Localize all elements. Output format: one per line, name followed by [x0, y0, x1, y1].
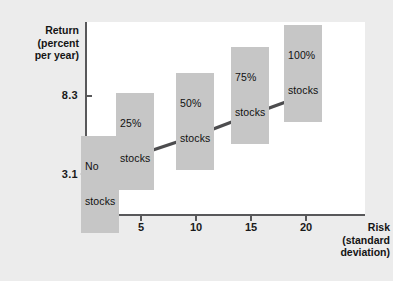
annotation-50-stocks: 50% stocks	[176, 73, 214, 170]
annotation-25-stocks-line-1: 25%	[120, 118, 150, 130]
annotation-25-stocks-line-2: stocks	[120, 153, 150, 165]
annotation-no-stocks-line-1: No	[85, 161, 115, 173]
annotation-100-stocks-line-2: stocks	[288, 85, 318, 97]
annotation-50-stocks-line-2: stocks	[180, 133, 210, 145]
annotation-75-stocks: 75% stocks	[231, 47, 269, 144]
annotation-50-stocks-line-1: 50%	[180, 98, 210, 110]
annotation-100-stocks-line-1: 100%	[288, 50, 318, 62]
annotation-75-stocks-line-1: 75%	[235, 72, 265, 84]
annotation-no-stocks-line-2: stocks	[85, 196, 115, 208]
risk-return-chart: 8.3 3.1 0 5 10 15 20 Return (percent per…	[0, 0, 393, 281]
annotation-no-stocks: No stocks	[81, 136, 119, 233]
annotation-75-stocks-line-2: stocks	[235, 107, 265, 119]
annotation-100-stocks: 100% stocks	[284, 25, 322, 122]
annotation-25-stocks: 25% stocks	[116, 93, 154, 190]
